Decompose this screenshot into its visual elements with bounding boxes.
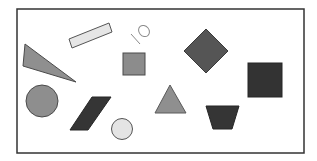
square-dark-shape	[248, 63, 282, 97]
circle-light-shape	[112, 119, 133, 140]
circle-gray-shape	[26, 85, 58, 117]
square-small-shape	[123, 53, 145, 75]
shapes-figure: 10	[0, 0, 317, 161]
